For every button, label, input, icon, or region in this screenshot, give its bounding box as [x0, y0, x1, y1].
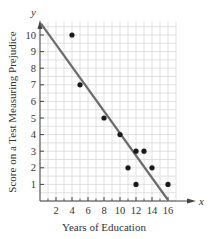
svg-text:7: 7: [31, 79, 36, 90]
svg-text:6: 6: [85, 205, 90, 216]
data-point: [165, 182, 170, 187]
svg-text:10: 10: [26, 30, 37, 41]
svg-text:4: 4: [31, 129, 37, 140]
data-point: [101, 115, 106, 120]
data-point: [69, 32, 74, 37]
data-point: [125, 165, 130, 170]
svg-text:1: 1: [31, 179, 36, 190]
regression-line: [41, 24, 168, 200]
svg-text:8: 8: [31, 63, 36, 74]
svg-text:8: 8: [101, 205, 106, 216]
svg-text:10: 10: [115, 205, 126, 216]
grid: [40, 22, 176, 201]
svg-text:9: 9: [31, 46, 36, 57]
y-axis-label: Score on a Test Measuring Prejudice: [6, 31, 18, 192]
svg-text:4: 4: [69, 205, 75, 216]
data-point: [133, 149, 138, 154]
data-point: [149, 165, 154, 170]
svg-text:14: 14: [147, 205, 158, 216]
svg-text:6: 6: [31, 96, 36, 107]
svg-text:2: 2: [31, 162, 36, 173]
x-axis-label: Years of Education: [62, 221, 146, 233]
data-point: [117, 132, 122, 137]
data-point: [133, 182, 138, 187]
scatter-chart: 24681012141612345678910 x y Years of Edu…: [0, 0, 210, 239]
svg-text:2: 2: [53, 205, 58, 216]
svg-text:5: 5: [31, 113, 36, 124]
y-axis-variable: y: [30, 6, 36, 18]
x-axis-variable: x: [198, 195, 204, 207]
svg-text:12: 12: [131, 205, 142, 216]
data-point: [77, 82, 82, 87]
svg-text:3: 3: [31, 146, 36, 157]
data-point: [141, 149, 146, 154]
svg-text:16: 16: [163, 205, 174, 216]
